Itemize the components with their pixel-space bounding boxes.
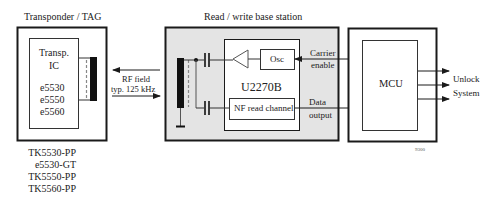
transponder-coil-icon bbox=[90, 57, 97, 101]
output-label: output bbox=[309, 110, 332, 120]
part-number-e5530-gt: e5530-GT bbox=[35, 159, 76, 170]
carrier-label: Carrier bbox=[310, 48, 335, 58]
enable-label: enable bbox=[311, 60, 334, 70]
unlock-label: Unlock bbox=[453, 74, 480, 84]
ic-part-e5560: e5560 bbox=[40, 106, 64, 117]
part-number-tk5550-pp: TK5550-PP bbox=[28, 171, 76, 182]
u2270b-label: U2270B bbox=[241, 80, 282, 95]
transponder-ic-label-1: Transp. bbox=[39, 47, 69, 58]
transponder-title: Transponder / TAG bbox=[24, 11, 102, 22]
part-number-tk5530-pp: TK5530-PP bbox=[28, 147, 76, 158]
ic-part-e5530: e5530 bbox=[40, 82, 64, 93]
rf-field-label: RF field bbox=[122, 74, 150, 84]
figure-id: 9300 bbox=[415, 147, 425, 152]
mcu-label: MCU bbox=[379, 78, 403, 89]
transponder-ic-label-2: IC bbox=[49, 60, 59, 71]
rf-frequency-label: typ. 125 kHz bbox=[111, 84, 155, 94]
base-coil-icon bbox=[177, 58, 184, 108]
ic-part-e5550: e5550 bbox=[40, 94, 64, 105]
data-label: Data bbox=[309, 97, 326, 107]
part-number-tk5560-pp: TK5560-PP bbox=[28, 183, 76, 194]
osc-label: Osc bbox=[270, 54, 284, 64]
nf-read-channel-label: NF read channel bbox=[234, 103, 293, 113]
system-label: System bbox=[453, 88, 480, 98]
base-station-title: Read / write base station bbox=[204, 11, 302, 22]
